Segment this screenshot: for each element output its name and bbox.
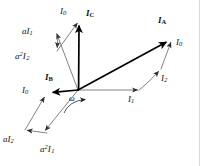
label-i0-top: I0 [60, 7, 66, 17]
label-ib: IB [45, 73, 53, 83]
phasor-diagram-figure: I0 IC IA I0 IB I0 I1 I2 aI1 a2I2 aI2 a2I… [0, 0, 200, 166]
phasor-i2 [139, 71, 159, 90]
phasor-ai2 [27, 130, 47, 133]
phasor-canvas [0, 0, 200, 166]
label-a2i1: a2I1 [40, 144, 55, 155]
resultant-phasors [53, 26, 167, 93]
label-i2: I2 [161, 74, 167, 84]
phasor-ia [78, 42, 166, 90]
label-ia: IA [158, 16, 166, 26]
phasor-a2i2 [57, 37, 58, 47]
label-i0-left: I0 [22, 86, 28, 96]
label-ic: IC [86, 9, 94, 19]
label-i1: I1 [128, 95, 134, 105]
label-ai2: aI2 [3, 135, 14, 145]
phasor-i0-c [57, 23, 77, 51]
phasor-i0-a [161, 43, 171, 70]
origin-point [77, 89, 79, 91]
label-i0-right: I0 [176, 38, 182, 48]
phasor-ai1 [57, 34, 78, 90]
label-omega: ω [69, 95, 75, 103]
label-a2i2: a2I2 [15, 51, 30, 62]
phasor-i0-b [25, 97, 44, 130]
label-ai1: aI1 [22, 27, 33, 37]
phasor-ib [53, 90, 78, 92]
